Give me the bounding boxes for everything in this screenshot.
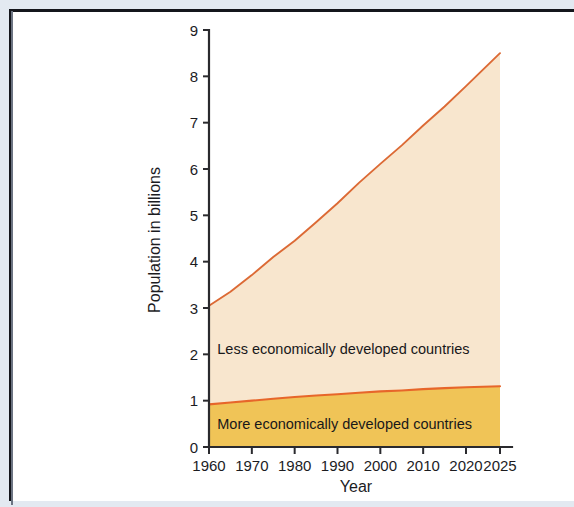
x-tick-label: 1960 <box>192 457 225 474</box>
y-tick-label: 0 <box>190 439 198 456</box>
y-tick-label: 6 <box>190 161 198 178</box>
x-axis-title: Year <box>340 478 373 495</box>
y-tick-label: 1 <box>190 392 198 409</box>
y-tick-label: 5 <box>190 207 198 224</box>
x-tick-label: 1980 <box>278 457 311 474</box>
y-tick-label: 9 <box>190 22 198 39</box>
chart-area: 0123456789 19601970198019902000201020202… <box>0 0 574 507</box>
y-tick-label: 8 <box>190 68 198 85</box>
y-tick-label: 7 <box>190 114 198 131</box>
x-tick-label: 1970 <box>235 457 268 474</box>
x-axis-tick-labels: 19601970198019902000201020202025 <box>192 457 516 474</box>
x-tick-label: 2000 <box>364 457 397 474</box>
x-tick-label: 2025 <box>483 457 516 474</box>
y-tick-label: 3 <box>190 300 198 317</box>
x-tick-label: 1990 <box>321 457 354 474</box>
x-tick-label: 2010 <box>406 457 439 474</box>
y-axis-title: Population in billions <box>146 167 163 313</box>
x-tick-label: 2020 <box>449 457 482 474</box>
y-axis-tick-labels: 0123456789 <box>190 22 198 456</box>
population-area-chart: 0123456789 19601970198019902000201020202… <box>0 0 574 507</box>
series-label: Less economically developed countries <box>217 341 469 357</box>
y-tick-label: 4 <box>190 253 198 270</box>
y-tick-label: 2 <box>190 346 198 363</box>
series-label: More economically developed countries <box>217 416 472 432</box>
page-root: 0123456789 19601970198019902000201020202… <box>0 0 574 507</box>
